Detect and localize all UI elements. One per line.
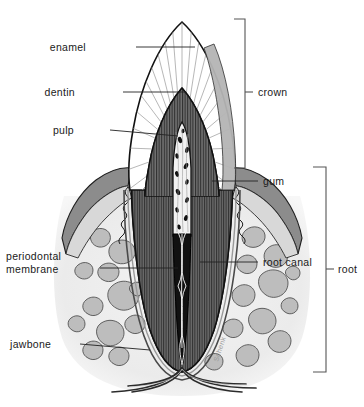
label-periodontal-line1: periodontal [6,250,61,262]
label-root: root [338,263,357,275]
diagram-page: enamel dentin pulp periodontal membrane … [0,0,364,407]
label-dentin: dentin [45,86,75,98]
label-periodontal-line2: membrane [6,263,59,275]
label-gum: gum [263,175,284,187]
label-pulp: pulp [53,124,74,136]
label-crown: crown [258,86,288,98]
pulp-chamber [173,122,191,236]
label-root-canal: root canal [263,256,312,268]
pulp-chamber-body [173,122,191,236]
label-jawbone: jawbone [9,338,51,350]
label-enamel: enamel [50,41,86,53]
tooth-cross-section-figure: enamel dentin pulp periodontal membrane … [0,0,364,407]
